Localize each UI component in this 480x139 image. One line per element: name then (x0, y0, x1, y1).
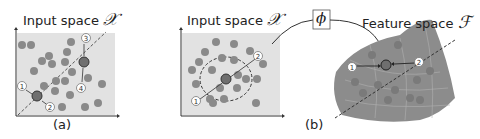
feature-space-manifold: 12 (334, 20, 455, 122)
feature-space-title-text: Feature space (362, 16, 453, 31)
panel-a-plot: 12 34 (14, 27, 120, 118)
panel-a-caption: (a) (53, 117, 71, 132)
panel-a-symbol: 𝒳 (103, 9, 118, 29)
svg-text:1: 1 (20, 83, 24, 91)
panel-b-title: Input space 𝒳 (187, 9, 282, 29)
panel-b-title-text: Input space (187, 13, 263, 28)
panel-a-title-text: Input space (23, 13, 99, 28)
svg-text:2: 2 (256, 53, 260, 61)
panel-b-caption: (b) (305, 117, 323, 132)
svg-text:1: 1 (194, 98, 198, 106)
panel-a-title: Input space 𝒳 (23, 9, 118, 29)
svg-text:3: 3 (84, 35, 88, 43)
svg-text:2: 2 (48, 104, 52, 112)
svg-text:4: 4 (79, 85, 84, 93)
feature-space-title: Feature space ℱ (362, 12, 471, 32)
feature-space-symbol: ℱ (458, 12, 471, 32)
panel-b-symbol: 𝒳 (267, 9, 282, 29)
svg-text:1: 1 (350, 64, 354, 72)
panel-b-plot: 12 (179, 27, 285, 118)
svg-text:2: 2 (417, 59, 421, 67)
phi-symbol: ϕ (316, 9, 326, 27)
